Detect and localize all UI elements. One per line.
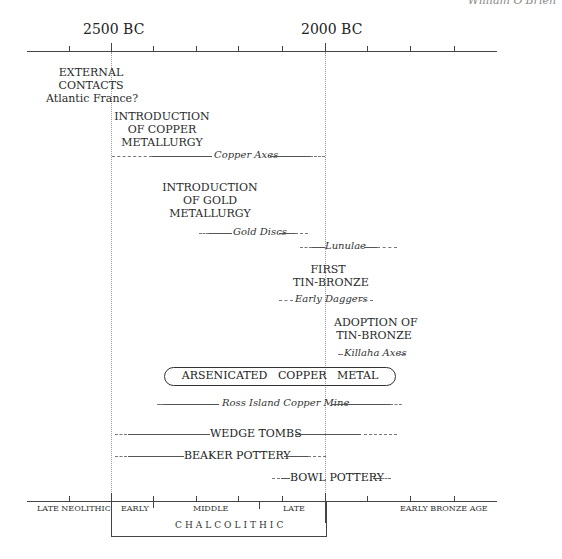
event-first-tin-bronze: FIRST TIN-BRONZE (293, 263, 363, 289)
period-late-neolithic: LATE NEOLITHIC (37, 504, 111, 513)
period-early-bronze-age: EARLY BRONZE AGE (400, 504, 488, 513)
top-axis-label-2000bc: 2000 BC (301, 21, 362, 37)
top-time-axis (27, 51, 497, 52)
top-axis-label-2500bc: 2500 BC (83, 21, 144, 37)
event-adoption-tin-bronze: ADOPTION OF TIN-BRONZE (334, 316, 414, 342)
arsenicated-copper-metal-label: ARSENICATED COPPER METAL (164, 369, 396, 382)
event-copper-metallurgy: INTRODUCTION OF COPPER METALLURGY (112, 110, 212, 149)
chalcolithic-label: CHALCOLITHIC (175, 520, 286, 530)
event-external-contacts: EXTERNAL CONTACTS Atlantic France? (46, 66, 136, 105)
event-gold-metallurgy: INTRODUCTION OF GOLD METALLURGY (160, 181, 260, 220)
author-credit: William O'Brien (468, 0, 556, 7)
chalcolithic-bracket (111, 501, 327, 537)
